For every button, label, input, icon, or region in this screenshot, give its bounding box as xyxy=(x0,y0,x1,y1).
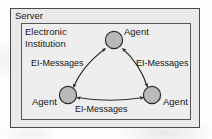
edge-bottom-messages-arrow xyxy=(77,98,144,101)
agent-node-top-label: Agent xyxy=(124,27,149,37)
edge-left-messages-arrow xyxy=(74,49,106,88)
agent-node-bottom-right[interactable] xyxy=(143,86,160,103)
diagram-page: Server Electronic Institution Agent Agen… xyxy=(0,0,212,139)
agent-node-bottom-left-label: Agent xyxy=(32,97,57,107)
agent-graph xyxy=(0,0,212,139)
edge-right-label: EI-Messages xyxy=(136,58,189,68)
agent-node-top[interactable] xyxy=(105,31,122,48)
edge-left-label: EI-Messages xyxy=(31,58,84,68)
edge-bottom-label: EI-Messages xyxy=(75,104,128,114)
agent-node-bottom-right-label: Agent xyxy=(163,97,188,107)
agent-node-bottom-left[interactable] xyxy=(59,86,76,103)
